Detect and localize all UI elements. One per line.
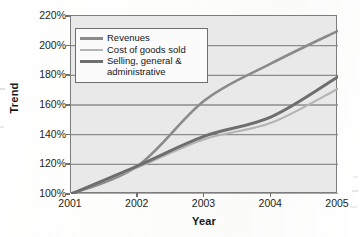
- chart-legend: Revenues Cost of goods sold Selling, gen…: [75, 28, 208, 83]
- y-axis-tick-mark: [66, 193, 70, 195]
- legend-item-revenues: Revenues: [80, 33, 202, 44]
- x-axis-tick-label: 2003: [182, 197, 226, 209]
- x-axis-title: Year: [70, 215, 338, 227]
- y-axis-tick-label: 160%: [20, 99, 66, 109]
- legend-label: Selling, general & administrative: [107, 56, 181, 77]
- legend-swatch-line-icon: [80, 45, 103, 55]
- x-axis-tick-mark: [203, 193, 205, 197]
- legend-label: Revenues: [107, 33, 150, 44]
- legend-label: Cost of goods sold: [107, 45, 186, 56]
- y-axis-tick-label: 120%: [20, 158, 66, 168]
- legend-item-cost-of-goods-sold: Cost of goods sold: [80, 45, 202, 56]
- page-edge-mark: [0, 88, 5, 90]
- legend-swatch-line-icon: [80, 56, 103, 66]
- x-axis-tick-label: 2002: [115, 197, 159, 209]
- plot-area: Revenues Cost of goods sold Selling, gen…: [70, 15, 337, 193]
- page-edge-mark: [0, 126, 4, 128]
- y-axis-tick-label: 220%: [20, 10, 66, 20]
- page-edge-mark: [352, 190, 358, 192]
- x-axis-tick-label: 2001: [48, 197, 92, 209]
- y-axis-tick-label: 140%: [20, 129, 66, 139]
- page-edge-mark: [353, 176, 358, 178]
- chart-figure: Trend Year 220%200%180%160%140%120%100% …: [0, 0, 360, 237]
- y-axis-tick-label: 180%: [20, 69, 66, 79]
- legend-item-selling-general-administrative: Selling, general & administrative: [80, 56, 202, 77]
- y-axis-tick-label: 200%: [20, 40, 66, 50]
- legend-swatch-line-icon: [80, 33, 103, 43]
- x-axis-tick-mark: [136, 193, 138, 197]
- x-axis-tick-label: 2004: [248, 197, 292, 209]
- series-line-selling-general-administrative: [71, 77, 338, 194]
- x-axis-tick-mark: [270, 193, 272, 197]
- x-axis-tick-label: 2005: [315, 197, 359, 209]
